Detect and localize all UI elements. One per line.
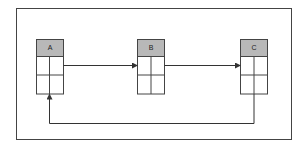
- table-a-label: A: [48, 44, 53, 51]
- table-b-label: B: [149, 44, 154, 51]
- diagram-canvas: A B C: [0, 0, 305, 147]
- table-c-label: C: [251, 44, 256, 51]
- table-node-a[interactable]: A: [37, 40, 64, 95]
- table-node-b[interactable]: B: [138, 40, 165, 95]
- table-node-c[interactable]: C: [241, 40, 268, 95]
